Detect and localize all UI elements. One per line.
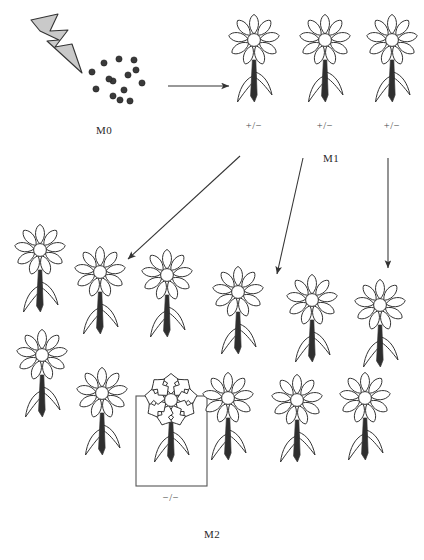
stem xyxy=(164,295,171,337)
flower-center xyxy=(319,34,332,47)
m1-plant-2 xyxy=(300,15,350,103)
flower-center xyxy=(222,392,235,405)
m2-plant-9 xyxy=(145,374,197,463)
seed-dot xyxy=(106,76,112,82)
leaf-right xyxy=(393,72,410,95)
leaf-right xyxy=(381,337,398,360)
petal xyxy=(234,267,243,287)
leaf-right xyxy=(255,72,272,95)
generation-label-m2: M2 xyxy=(204,528,220,540)
m2-plant-9-genotype-label: −/− xyxy=(163,492,180,503)
flower-center xyxy=(232,286,245,299)
m1-plant-3-genotype-label: +/− xyxy=(384,120,401,131)
mutagen-bolt-layer xyxy=(31,14,82,73)
m2-plant-5 xyxy=(287,275,337,363)
flower-center xyxy=(161,269,174,282)
seed-dot xyxy=(121,87,127,93)
petal xyxy=(388,15,397,35)
leaf-right xyxy=(168,307,185,330)
m2-plant-7 xyxy=(17,330,67,418)
seed-dot xyxy=(131,57,137,63)
petal xyxy=(308,275,317,295)
lightning-bolt-icon xyxy=(31,14,82,73)
m2-plant-10 xyxy=(203,373,253,461)
petal xyxy=(361,373,370,393)
flower-center xyxy=(165,394,178,407)
leaf-right xyxy=(229,430,246,453)
seed-dot xyxy=(116,56,122,62)
seed-dot xyxy=(101,60,107,66)
stem xyxy=(97,292,104,334)
m2-plant-8 xyxy=(77,368,127,456)
caption-sliver xyxy=(0,553,424,560)
stem xyxy=(389,60,396,102)
stem xyxy=(225,418,232,460)
m2-plant-11 xyxy=(272,375,322,463)
m1-plant-1 xyxy=(229,15,279,103)
seed-dot xyxy=(139,80,145,86)
figure-canvas: +/−+/−+/−−/−M0M1M2 xyxy=(0,0,424,560)
generation-label-m0: M0 xyxy=(96,124,112,136)
generation-label-m1: M1 xyxy=(323,152,339,164)
m2-plant-12 xyxy=(340,373,390,461)
petal xyxy=(36,225,45,245)
petal xyxy=(293,375,302,395)
arrow-layer xyxy=(128,86,388,274)
leaf-right xyxy=(101,304,118,327)
seed-cluster xyxy=(89,56,145,104)
leaf-right xyxy=(41,282,58,305)
leaf-right xyxy=(298,432,315,455)
stem xyxy=(309,320,316,362)
leaf-right xyxy=(326,72,343,95)
flower-center xyxy=(96,387,109,400)
leaf-right xyxy=(366,430,383,453)
m2-plant-2 xyxy=(75,247,125,335)
diagram-svg xyxy=(0,0,424,560)
plant-layer xyxy=(15,15,417,487)
flower-center xyxy=(248,34,261,47)
arrow-m1-to-m2-left xyxy=(128,156,240,259)
stem xyxy=(362,418,369,460)
flower-center xyxy=(386,34,399,47)
seed-dot xyxy=(110,93,116,99)
seed-dot xyxy=(117,97,123,103)
petal xyxy=(321,15,330,35)
m2-plant-4 xyxy=(213,267,263,355)
petal xyxy=(224,373,233,393)
seed-dot xyxy=(133,67,139,73)
m2-plant-6 xyxy=(355,280,405,368)
stem xyxy=(99,413,106,455)
flower-center xyxy=(374,299,387,312)
flower-center xyxy=(291,394,304,407)
leaf-right xyxy=(313,332,330,355)
seed-dot xyxy=(125,72,131,78)
m2-plant-3 xyxy=(142,250,192,338)
leaf-right xyxy=(239,324,256,347)
petal xyxy=(96,247,105,267)
m1-plant-1-genotype-label: +/− xyxy=(246,120,263,131)
stem xyxy=(294,420,301,462)
flower-center xyxy=(359,392,372,405)
m2-plant-1 xyxy=(15,225,65,313)
stem xyxy=(251,60,258,102)
m1-plant-3 xyxy=(367,15,417,103)
stem xyxy=(322,60,329,102)
arrow-m1-to-m2-middle xyxy=(277,158,303,274)
seed-dot xyxy=(127,98,133,104)
petal xyxy=(376,280,385,300)
petal xyxy=(38,330,47,350)
stem xyxy=(235,312,242,354)
leaf-right xyxy=(103,425,120,448)
flower-center xyxy=(34,244,47,257)
petal xyxy=(163,250,172,270)
flower-center xyxy=(36,349,49,362)
leaf-right xyxy=(43,387,60,410)
flower-center xyxy=(94,266,107,279)
stem xyxy=(377,325,384,367)
leaf-right xyxy=(172,432,189,455)
seed-dot xyxy=(89,69,95,75)
stem xyxy=(37,270,44,312)
petal xyxy=(250,15,259,35)
seed-dot xyxy=(93,86,99,92)
stem xyxy=(39,375,46,417)
